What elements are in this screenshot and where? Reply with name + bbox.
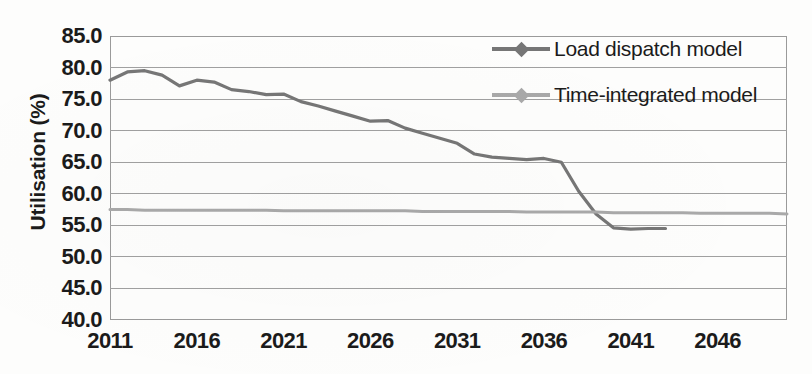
x-tick-label: 2031 <box>412 330 502 352</box>
y-tick-label: 45.0 <box>34 277 102 299</box>
x-tick-label: 2016 <box>152 330 242 352</box>
y-tick-label: 55.0 <box>34 214 102 236</box>
legend-diamond-marker-icon <box>513 87 529 103</box>
legend-label: Load dispatch model <box>554 37 742 61</box>
y-tick-label: 60.0 <box>34 183 102 205</box>
y-axis-tick-labels: 85.080.075.070.065.060.055.050.045.040.0 <box>34 0 102 374</box>
legend-item-time-integrated-model: Time-integrated model <box>492 72 812 118</box>
x-tick-label: 2046 <box>673 330 763 352</box>
x-tick-label: 2021 <box>239 330 329 352</box>
y-tick-label: 65.0 <box>34 151 102 173</box>
y-tick-label: 50.0 <box>34 246 102 268</box>
chart-legend: Load dispatch modelTime-integrated model <box>492 26 812 118</box>
legend-label: Time-integrated model <box>554 83 757 107</box>
x-tick-label: 2036 <box>499 330 589 352</box>
y-tick-label: 75.0 <box>34 88 102 110</box>
utilisation-line-chart: Utilisation (%) 85.080.075.070.065.060.0… <box>0 0 812 374</box>
legend-item-load-dispatch-model: Load dispatch model <box>492 26 812 72</box>
y-tick-label: 80.0 <box>34 57 102 79</box>
legend-swatch-icon <box>492 40 550 58</box>
y-tick-label: 85.0 <box>34 25 102 47</box>
x-tick-label: 2011 <box>65 330 155 352</box>
x-tick-label: 2026 <box>325 330 415 352</box>
series-line <box>110 210 787 214</box>
x-tick-label: 2041 <box>586 330 676 352</box>
legend-swatch-icon <box>492 86 550 104</box>
y-tick-label: 70.0 <box>34 120 102 142</box>
legend-diamond-marker-icon <box>513 41 529 57</box>
